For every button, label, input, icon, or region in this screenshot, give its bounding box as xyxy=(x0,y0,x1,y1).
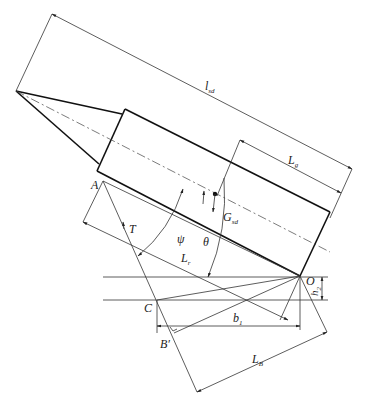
center-axis xyxy=(16,91,330,252)
T-arrow xyxy=(123,222,124,229)
nose-cone xyxy=(16,91,122,164)
label-length-LB: LB xyxy=(251,352,264,368)
label-section-length: Lg xyxy=(287,153,299,169)
gravity-point xyxy=(203,191,217,212)
label-gravity: Gsd xyxy=(223,210,238,226)
label-width-b1: b1 xyxy=(233,311,243,327)
line-T xyxy=(103,181,197,392)
width-b1-dimension xyxy=(157,300,300,333)
label-angle-theta: θ xyxy=(203,235,209,249)
label-point-C: C xyxy=(144,301,153,315)
rocket-geometry-diagram: lsd Lg Gsd A T ψ θ Lr O h2 C b1 B′ LB xyxy=(0,0,365,406)
overall-length-dimension xyxy=(16,14,352,218)
section-length-dimension xyxy=(217,140,341,196)
label-point-A: A xyxy=(90,178,99,192)
label-point-B: B′ xyxy=(160,337,170,351)
right-angle-mark xyxy=(170,327,177,331)
label-point-O: O xyxy=(306,274,315,288)
label-angle-psi: ψ xyxy=(177,232,185,246)
label-length-Lr: Lr xyxy=(180,251,191,267)
label-overall-length: lsd xyxy=(205,79,215,95)
label-point-T: T xyxy=(129,222,137,236)
